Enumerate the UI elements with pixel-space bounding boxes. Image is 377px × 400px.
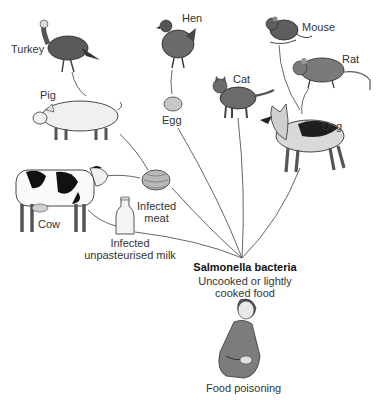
link-cat-hub <box>238 118 243 258</box>
hub-title: Salmonella bacteria <box>186 261 304 273</box>
meat-illustration <box>140 168 172 192</box>
turkey-label: Turkey <box>11 43 44 55</box>
milk-label: Infected unpasteurised milk <box>75 237 185 261</box>
link-egg-hub <box>178 128 242 258</box>
mouse-label: Mouse <box>302 21 335 33</box>
milk-label-line2: unpasteurised milk <box>75 249 185 261</box>
cat-label: Cat <box>233 73 250 85</box>
milk-bottle-illustration <box>114 196 136 236</box>
rat-label: Rat <box>342 53 359 65</box>
person-illustration <box>210 296 274 380</box>
milk-label-line1: Infected <box>75 237 185 249</box>
link-dog-hub <box>242 168 300 258</box>
outcome-label: Food poisoning <box>206 382 281 394</box>
cow-label: Cow <box>38 218 60 230</box>
egg-illustration <box>162 95 184 113</box>
hub-label: Salmonella bacteria Uncooked or lightly … <box>186 261 304 299</box>
dog-label: Dog <box>322 120 342 132</box>
link-hen-egg <box>171 70 172 94</box>
pig-label: Pig <box>40 89 56 101</box>
meat-label-line1: Infected <box>137 200 176 212</box>
hen-label: Hen <box>182 12 202 24</box>
pig-illustration <box>32 96 124 142</box>
meat-label: Infected meat <box>137 200 176 224</box>
dog-illustration <box>258 100 354 176</box>
meat-label-line2: meat <box>137 212 176 224</box>
egg-label: Egg <box>162 114 182 126</box>
link-pig-meat <box>120 134 148 170</box>
rat-illustration <box>288 52 376 92</box>
hub-line1: Uncooked or lightly <box>186 275 304 287</box>
cow-illustration <box>12 162 110 234</box>
